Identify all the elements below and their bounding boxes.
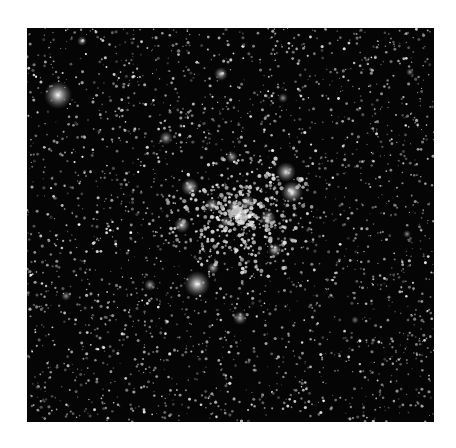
- star-field-image: [27, 28, 434, 422]
- star-cluster-canvas: [27, 28, 434, 422]
